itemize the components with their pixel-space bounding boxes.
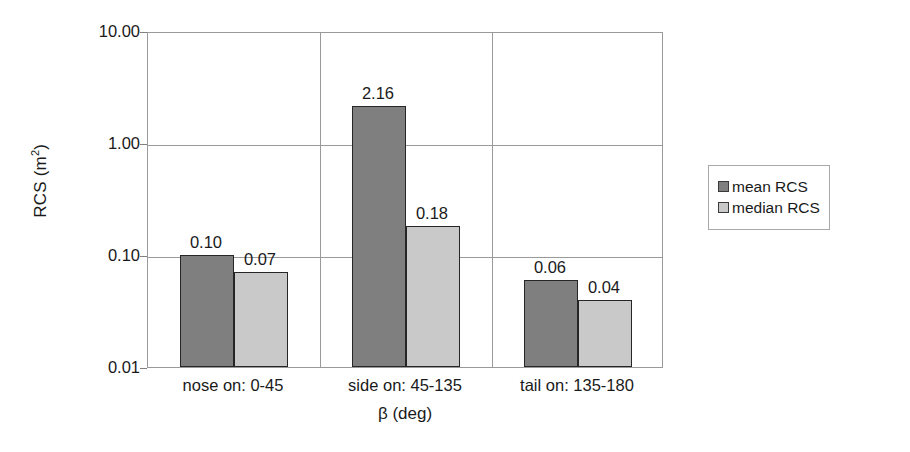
bar-value-label-1-0: 0.07 [225,250,295,269]
bar-median-rcs-1[interactable] [406,226,460,367]
y-axis-title-close: ) [31,144,50,150]
bar-mean-rcs-0[interactable] [180,255,234,367]
rcs-bar-chart: RCS (m2) 10.001.000.100.01 0.100.072.160… [0,0,910,452]
y-tick-mark-3 [140,368,147,369]
y-tick-3: 0.01 [52,368,140,369]
legend-swatch-mean-rcs [718,181,729,192]
legend-swatch-median-rcs [718,202,729,213]
x-axis-title: β (deg) [147,404,663,424]
bar-median-rcs-2[interactable] [578,300,632,367]
bar-value-label-1-2: 0.04 [569,278,639,297]
legend-label-median-rcs: median RCS [732,199,820,217]
y-tick-label-0: 10.00 [60,23,140,39]
bar-value-label-0-2: 0.06 [515,258,585,277]
category-separator-1 [320,33,321,367]
y-tick-1: 1.00 [52,144,140,145]
x-category-label-0: nose on: 0-45 [147,376,319,395]
y-tick-label-3: 0.01 [60,359,140,375]
y-tick-label-1: 1.00 [60,135,140,151]
y-axis-title: RCS (m2) [29,81,51,281]
y-tick-mark-0 [140,32,147,33]
y-axis-title-exponent: 2 [29,150,41,156]
y-tick-label-2: 0.10 [60,247,140,263]
legend-item-median-rcs[interactable]: median RCS [718,197,820,218]
category-separator-2 [492,33,493,367]
y-tick-2: 0.10 [52,256,140,257]
legend-item-mean-rcs[interactable]: mean RCS [718,176,820,197]
bar-mean-rcs-1[interactable] [352,106,406,367]
bar-value-label-0-1: 2.16 [343,84,413,103]
legend-label-mean-rcs: mean RCS [732,178,808,196]
x-category-label-2: tail on: 135-180 [491,376,663,395]
bar-value-label-0-0: 0.10 [171,233,241,252]
bar-median-rcs-0[interactable] [234,272,288,367]
plot-area [147,32,663,368]
y-axis-title-text: RCS (m [31,156,50,218]
y-tick-mark-2 [140,256,147,257]
bar-value-label-1-1: 0.18 [397,204,467,223]
legend: mean RCS median RCS [708,165,830,230]
y-tick-mark-1 [140,144,147,145]
y-tick-0: 10.00 [52,32,140,33]
x-category-label-1: side on: 45-135 [319,376,491,395]
